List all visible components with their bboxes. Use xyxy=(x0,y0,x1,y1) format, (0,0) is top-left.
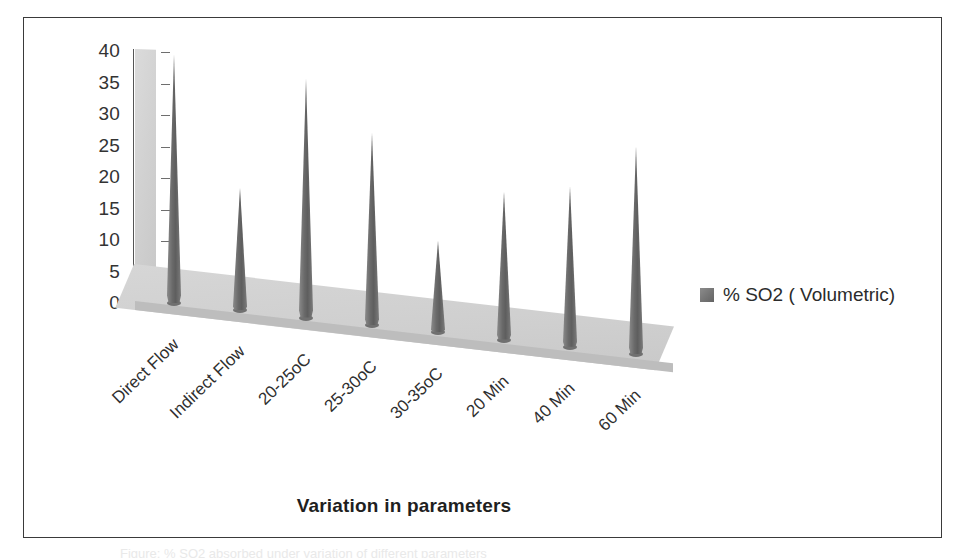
x-axis-label-indirect-flow: Indirect Flow xyxy=(92,343,248,494)
legend-swatch-so2 xyxy=(700,288,714,302)
legend-label-so2: % SO2 ( Volumetric) xyxy=(723,285,895,304)
y-axis-tick-20: 20 xyxy=(78,167,120,186)
y-axis-tick-40: 40 xyxy=(78,41,120,60)
x-axis-label-20-25oc: 20-25oC xyxy=(158,350,314,501)
chart-legend: % SO2 ( Volumetric) xyxy=(700,285,895,304)
y-axis-tickmark-30 xyxy=(161,115,170,116)
bar-cone xyxy=(233,187,247,310)
figure-caption: Figure: % SO2 absorbed under variation o… xyxy=(120,546,820,558)
bar-cone xyxy=(629,146,643,354)
x-axis-title: Variation in parameters xyxy=(24,495,784,517)
y-axis-tick-0: 0 xyxy=(78,293,120,312)
y-axis-labels: 4035302520151050 xyxy=(60,18,120,318)
chart-frame: 4035302520151050 Direct FlowIndirect Flo… xyxy=(23,17,942,538)
x-axis-label-30-35oc: 30-35oC xyxy=(290,365,446,516)
figure-container: 4035302520151050 Direct FlowIndirect Flo… xyxy=(0,0,957,558)
y-axis-tickmark-15 xyxy=(161,210,170,211)
bar-cone xyxy=(365,133,379,325)
y-axis-tick-30: 30 xyxy=(78,104,120,123)
bar-cone xyxy=(497,191,511,339)
y-axis-tickmark-25 xyxy=(161,147,170,148)
y-axis-tick-10: 10 xyxy=(78,230,120,249)
y-axis-tick-5: 5 xyxy=(78,262,120,281)
y-axis-tickmark-20 xyxy=(161,178,170,179)
plot-area: 4035302520151050 Direct FlowIndirect Flo… xyxy=(24,18,943,539)
x-axis-label-25-30oc: 25-30oC xyxy=(224,357,380,508)
y-axis-tick-35: 35 xyxy=(78,73,120,92)
y-axis-tick-25: 25 xyxy=(78,136,120,155)
x-axis-label-direct-flow: Direct Flow xyxy=(26,335,182,486)
bar-cone xyxy=(431,241,445,332)
bar-cone xyxy=(299,78,313,317)
y-axis-tickmark-40 xyxy=(161,52,170,53)
y-axis-tickmark-35 xyxy=(161,84,170,85)
y-axis-tick-15: 15 xyxy=(78,199,120,218)
bar-cone xyxy=(563,186,577,347)
